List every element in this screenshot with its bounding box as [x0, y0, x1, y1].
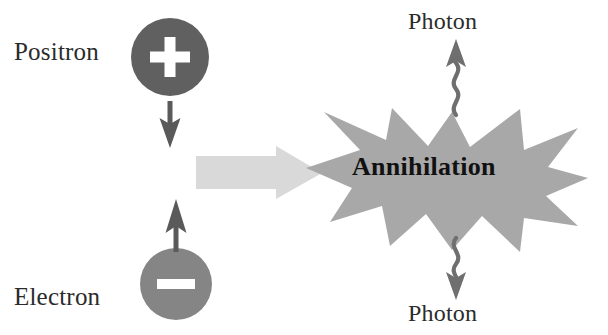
- positron-group: [131, 18, 209, 96]
- diagram-canvas: Positron Electron Photon Photon Annihila…: [0, 0, 608, 335]
- process-arrow: [196, 146, 322, 199]
- electron-label: Electron: [14, 283, 100, 311]
- electron-motion-arrow: [166, 199, 187, 252]
- positron-motion-arrow: [160, 101, 181, 148]
- photon-top-label: Photon: [408, 8, 477, 35]
- positron-plus-icon-vertical: [165, 37, 176, 77]
- electron-minus-icon: [157, 279, 195, 289]
- annihilation-label: Annihilation: [352, 152, 496, 182]
- electron-group: [140, 248, 212, 320]
- photon-bottom: [446, 238, 466, 300]
- photon-bottom-label: Photon: [408, 300, 477, 327]
- positron-label: Positron: [14, 38, 99, 66]
- photon-top: [446, 39, 466, 115]
